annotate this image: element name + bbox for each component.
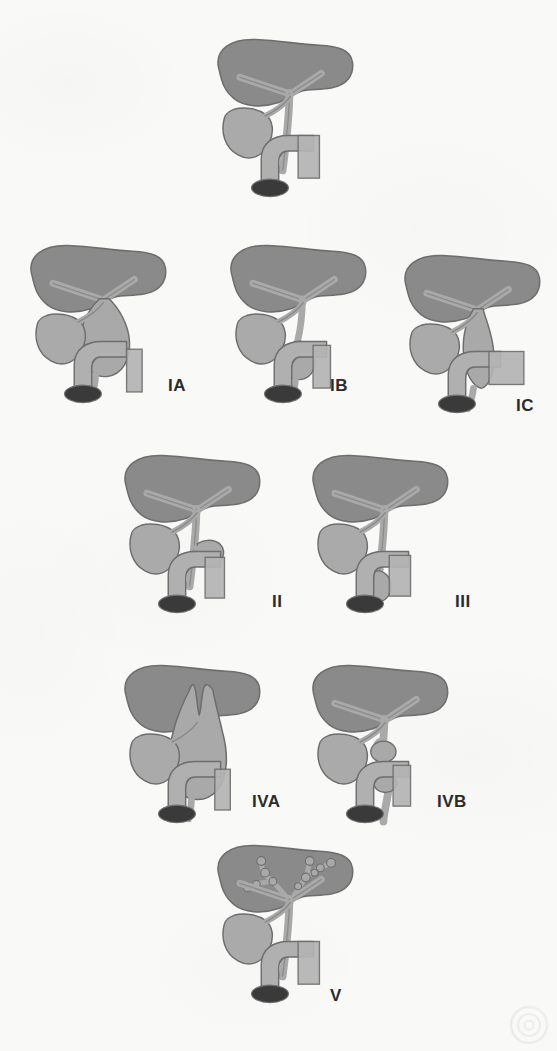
panel-label-iii: III xyxy=(455,592,471,612)
panel-label-v: V xyxy=(330,986,342,1006)
pancreas xyxy=(298,136,319,179)
duodenal-lumen xyxy=(159,805,196,822)
circular-watermark xyxy=(507,1003,551,1047)
pancreas xyxy=(205,557,224,598)
panel-ii xyxy=(112,438,272,633)
panel-iva xyxy=(112,648,272,843)
panel-label-ii: II xyxy=(272,592,282,612)
duodenal-lumen xyxy=(252,179,289,196)
duodenal-lumen xyxy=(347,595,384,612)
pancreas xyxy=(489,352,524,385)
panel-ib xyxy=(218,228,378,423)
panel-ia xyxy=(18,228,178,423)
panel-iii xyxy=(300,438,460,633)
duodenal-lumen xyxy=(347,805,384,822)
panel-label-ia: IA xyxy=(168,376,186,396)
panel-label-ib: IB xyxy=(330,376,348,396)
duodenal-lumen xyxy=(252,985,289,1002)
pancreas xyxy=(127,349,143,392)
panel-normal xyxy=(205,22,365,217)
pancreas xyxy=(393,765,410,806)
pancreas xyxy=(389,555,410,596)
duodenal-lumen xyxy=(159,595,196,612)
panel-ivb xyxy=(300,648,460,843)
panel-label-iva: IVA xyxy=(252,792,281,812)
panel-label-ivb: IVB xyxy=(437,792,467,812)
pancreas xyxy=(298,942,319,985)
duodenal-lumen xyxy=(65,385,102,402)
duodenal-lumen xyxy=(265,385,302,402)
duodenal-lumen xyxy=(439,395,476,412)
panel-label-ic: IC xyxy=(516,396,534,416)
pancreas xyxy=(313,345,330,388)
pancreas xyxy=(215,769,231,810)
